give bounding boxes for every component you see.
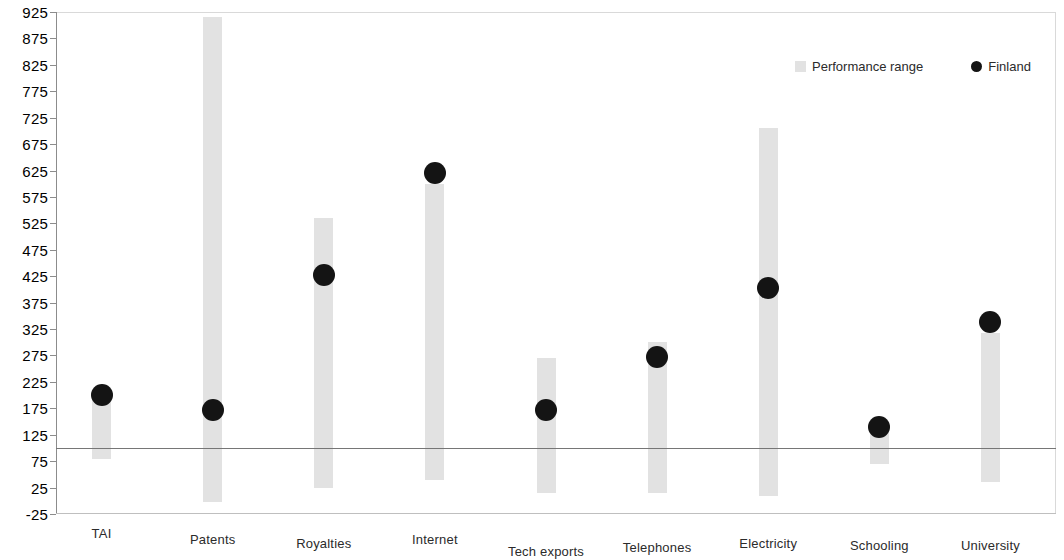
y-axis-tick	[50, 408, 56, 409]
y-axis-tick-label: 625	[0, 163, 48, 178]
y-axis-tick	[50, 303, 56, 304]
finland-marker	[979, 311, 1001, 333]
finland-marker	[757, 277, 779, 299]
finland-dot-icon	[971, 61, 982, 72]
y-axis-tick	[50, 91, 56, 92]
finland-marker	[646, 346, 668, 368]
x-axis-tick-label: Telephones	[623, 540, 692, 555]
x-axis-tick-label: Internet	[412, 532, 458, 547]
finland-marker	[91, 384, 113, 406]
reference-line	[56, 448, 1056, 449]
y-axis-tick	[50, 355, 56, 356]
y-axis-tick-label: 125	[0, 427, 48, 442]
x-axis-tick-label: Patents	[190, 532, 236, 547]
y-axis-tick	[50, 197, 56, 198]
y-axis-tick	[50, 435, 56, 436]
y-axis-tick-label: 875	[0, 31, 48, 46]
y-axis-tick-label: 775	[0, 84, 48, 99]
legend-entry-performance-range: Performance range	[795, 59, 923, 74]
y-axis-tick-label: 225	[0, 374, 48, 389]
y-axis-tick	[50, 488, 56, 489]
y-axis-tick-label: 75	[0, 454, 48, 469]
range-bar	[759, 128, 778, 495]
legend-label-finland: Finland	[988, 59, 1031, 74]
x-axis-tick-label: Electricity	[739, 536, 797, 551]
y-axis-tick-label: 375	[0, 295, 48, 310]
y-axis-tick-label: 475	[0, 242, 48, 257]
range-bar	[203, 17, 222, 502]
finland-marker	[535, 399, 557, 421]
y-axis-tick-label: 275	[0, 348, 48, 363]
y-axis-tick	[50, 382, 56, 383]
plot-frame-top	[56, 12, 1056, 13]
x-axis-tick-label: Tech exports	[508, 544, 584, 559]
range-bar	[981, 333, 1000, 483]
x-axis-tick-label: Schooling	[850, 538, 909, 553]
y-axis-tick-label: 725	[0, 110, 48, 125]
x-axis-tick-label: Royalties	[296, 536, 351, 551]
y-axis-tick-label: 575	[0, 189, 48, 204]
y-axis-tick-label: 925	[0, 5, 48, 20]
y-axis-tick	[50, 250, 56, 251]
y-axis-tick-label: 25	[0, 480, 48, 495]
y-axis-tick	[50, 514, 56, 515]
y-axis-tick-label: 325	[0, 322, 48, 337]
x-axis-line	[56, 513, 1056, 514]
plot-area	[56, 12, 1056, 514]
y-axis-tick	[50, 329, 56, 330]
x-axis-tick-label: University	[961, 538, 1020, 553]
range-bar	[537, 358, 556, 493]
y-axis-tick-label: 175	[0, 401, 48, 416]
finland-marker	[868, 416, 890, 438]
legend-label-performance-range: Performance range	[812, 59, 923, 74]
y-axis-tick	[50, 38, 56, 39]
y-axis-labels: -252575125175225275325375425475525575625…	[0, 12, 48, 514]
y-axis-tick-label: 525	[0, 216, 48, 231]
finland-marker	[202, 399, 224, 421]
y-axis-line	[56, 12, 57, 514]
y-axis-tick	[50, 12, 56, 13]
plot-frame-right	[1055, 12, 1056, 514]
y-axis-tick	[50, 461, 56, 462]
y-axis-tick-label: 675	[0, 137, 48, 152]
x-axis-tick-label: TAI	[92, 526, 112, 541]
chart-legend: Performance range Finland	[795, 56, 1031, 76]
finland-marker	[313, 264, 335, 286]
range-bar	[425, 184, 444, 480]
y-axis-tick	[50, 171, 56, 172]
y-axis-tick	[50, 223, 56, 224]
finland-marker	[424, 162, 446, 184]
range-swatch-icon	[795, 61, 806, 72]
y-axis-tick-label: -25	[0, 507, 48, 522]
y-axis-tick	[50, 144, 56, 145]
chart-container: -252575125175225275325375425475525575625…	[0, 0, 1064, 560]
y-axis-tick-label: 825	[0, 57, 48, 72]
legend-entry-finland: Finland	[971, 59, 1031, 74]
y-axis-tick	[50, 118, 56, 119]
y-axis-tick	[50, 276, 56, 277]
y-axis-tick	[50, 65, 56, 66]
y-axis-tick-label: 425	[0, 269, 48, 284]
